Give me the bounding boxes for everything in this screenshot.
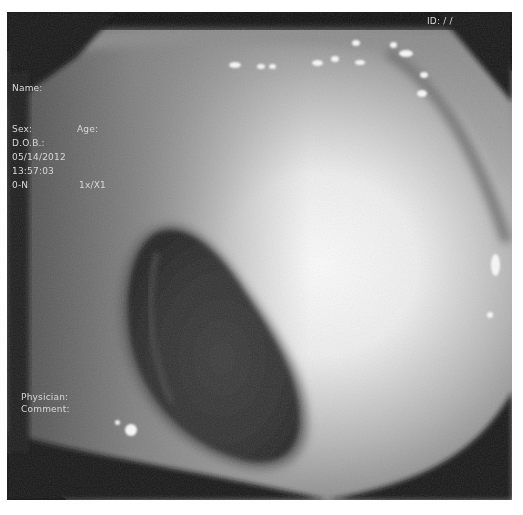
highlight	[115, 420, 120, 425]
overlay-mode: 0-N	[12, 180, 28, 191]
highlight	[331, 56, 339, 62]
highlight	[257, 64, 265, 69]
overlay-sex-label: Sex:	[12, 124, 32, 135]
overlay-name-label: Name:	[12, 83, 43, 94]
overlay-zoom: 1x/X1	[79, 180, 106, 191]
overlay-top-right-id: ID: / /	[427, 16, 453, 27]
highlight	[352, 40, 360, 46]
highlight	[420, 72, 428, 78]
endoscopy-scene	[7, 12, 512, 500]
overlay-age-label: Age:	[77, 124, 98, 135]
highlight	[390, 42, 397, 48]
endoscopy-image-frame: ID: / / Name: Sex: Age: D.O.B.: 05/14/20…	[7, 12, 512, 500]
highlight	[487, 312, 493, 318]
highlight	[229, 62, 241, 68]
overlay-date: 05/14/2012	[12, 152, 66, 163]
overlay-dob-label: D.O.B.:	[12, 138, 45, 149]
highlight	[269, 64, 276, 69]
overlay-time: 13:57:03	[12, 166, 54, 177]
highlight	[312, 60, 323, 66]
overlay-comment-label: Comment:	[21, 404, 70, 415]
highlight	[125, 424, 137, 436]
image-grain	[7, 12, 512, 500]
highlight	[417, 90, 427, 97]
highlight	[355, 60, 365, 65]
highlight	[491, 254, 500, 276]
highlight	[399, 50, 413, 57]
overlay-physician-label: Physician:	[21, 392, 68, 403]
